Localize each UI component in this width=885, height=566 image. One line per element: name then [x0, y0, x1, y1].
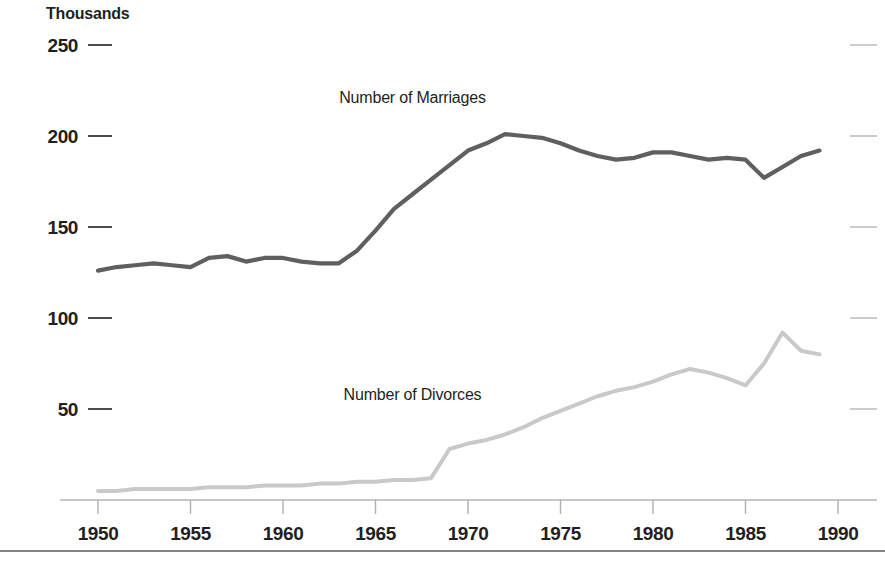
series-line-marriages [98, 134, 820, 271]
chart-container: Thousands 50100150200250 195019551960196… [0, 0, 885, 566]
x-tick-label-1955: 1955 [170, 523, 212, 544]
y-tick-label-200: 200 [47, 126, 78, 147]
x-tick-label-1985: 1985 [725, 523, 767, 544]
series-label-divorces: Number of Divorces [344, 386, 482, 403]
series-line-divorces [98, 333, 820, 491]
x-tick-label-1975: 1975 [540, 523, 582, 544]
x-tick-label-1980: 1980 [633, 523, 674, 544]
x-tick-label-1990: 1990 [818, 523, 859, 544]
x-tick-label-1960: 1960 [263, 523, 304, 544]
x-axis: 195019551960196519701975198019851990 [60, 500, 877, 544]
y-tick-label-100: 100 [47, 308, 78, 329]
x-tick-label-1970: 1970 [448, 523, 489, 544]
series-label-marriages: Number of Marriages [339, 89, 486, 106]
y-axis-unit-label: Thousands [46, 5, 130, 22]
series-layer [98, 134, 820, 491]
x-tick-label-1950: 1950 [78, 523, 119, 544]
y-tick-label-50: 50 [58, 399, 78, 420]
y-tick-label-250: 250 [47, 35, 78, 56]
y-tick-label-150: 150 [47, 217, 78, 238]
line-chart: Thousands 50100150200250 195019551960196… [0, 0, 885, 566]
x-tick-label-1965: 1965 [355, 523, 397, 544]
